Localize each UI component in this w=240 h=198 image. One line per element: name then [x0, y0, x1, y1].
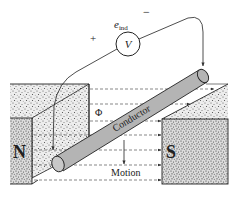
induced-emf-diagram: N S Φ Conductor Motion V — [0, 0, 240, 198]
emf-subscript: ind — [119, 24, 128, 32]
negative-terminal-label: − — [143, 5, 150, 19]
flux-label: Φ — [95, 107, 102, 118]
north-pole-label: N — [13, 142, 26, 162]
north-magnet: N — [10, 84, 89, 184]
south-pole-label: S — [166, 142, 176, 162]
motion-label: Motion — [111, 167, 140, 178]
positive-terminal-label: + — [90, 32, 96, 44]
wire-negative — [139, 17, 203, 66]
motion-indicator: Motion — [111, 140, 140, 178]
voltmeter: V — [116, 32, 140, 56]
emf-label: eind — [114, 18, 128, 32]
